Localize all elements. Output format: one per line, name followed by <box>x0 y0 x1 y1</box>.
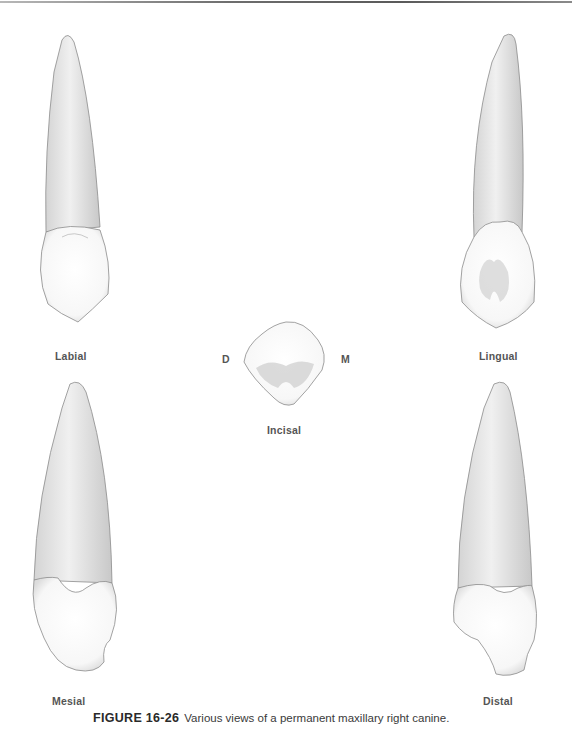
root-shape <box>458 382 532 588</box>
figure-caption: FIGURE 16-26Various views of a permanent… <box>93 711 449 725</box>
root-shape <box>34 382 112 583</box>
root-shape <box>473 34 523 237</box>
figure-caption-text: Various views of a permanent maxillary r… <box>184 712 449 724</box>
label-mesial: Mesial <box>52 695 85 707</box>
label-lingual: Lingual <box>479 350 518 362</box>
crown-shape <box>33 577 116 671</box>
page-top-rule <box>0 1 572 3</box>
labial-view-illustration <box>22 32 132 332</box>
label-distal-marker: D <box>222 353 230 365</box>
mesial-view-illustration <box>26 378 126 678</box>
label-mesial-marker: M <box>341 353 350 365</box>
label-incisal: Incisal <box>267 424 301 436</box>
figure-number: FIGURE 16-26 <box>93 711 179 725</box>
distal-view-illustration <box>444 378 544 678</box>
label-distal: Distal <box>483 695 513 707</box>
incisal-view-illustration <box>238 318 336 410</box>
label-labial: Labial <box>55 350 87 362</box>
crown-shape <box>40 226 109 322</box>
lingual-view-illustration <box>442 32 552 332</box>
root-shape <box>46 35 100 232</box>
crown-shape <box>454 584 537 675</box>
